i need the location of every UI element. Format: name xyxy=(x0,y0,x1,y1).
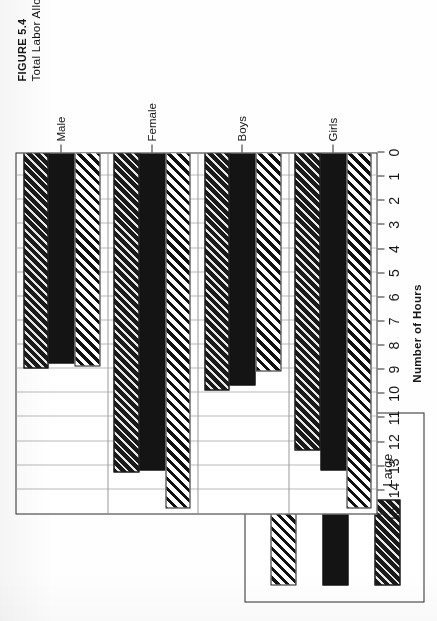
bar-girls-small xyxy=(346,152,372,508)
value-tick xyxy=(377,416,384,417)
category-tick xyxy=(332,144,333,152)
value-tick-label: 1 xyxy=(385,172,401,180)
value-axis-title: Number of Hours xyxy=(410,152,422,514)
value-tick-label: 0 xyxy=(385,148,401,156)
value-tick xyxy=(377,465,384,466)
value-tick-label: 11 xyxy=(385,410,401,425)
value-tick-label: 3 xyxy=(385,221,401,229)
figure-caption: FIGURE 5.4 Total Labor Allocation by Age… xyxy=(15,0,41,81)
category-label-female: Female xyxy=(145,103,157,141)
category-label-boys: Boys xyxy=(235,115,247,141)
bar-group-female xyxy=(107,153,198,513)
category-label-male: Male xyxy=(54,116,66,141)
category-label-girls: Girls xyxy=(326,117,338,141)
bar-group-girls xyxy=(288,153,378,513)
category-tick xyxy=(60,144,61,152)
bar-group-boys xyxy=(197,153,288,513)
bar-boys-small xyxy=(255,152,281,371)
bar-boys-large xyxy=(204,152,230,390)
category-tick xyxy=(241,144,242,152)
value-tick xyxy=(377,248,384,249)
value-tick xyxy=(377,344,384,345)
value-tick xyxy=(377,489,384,490)
rotated-figure-canvas: Small Medium Large 151413121110987654321… xyxy=(0,0,437,621)
value-tick-label: 7 xyxy=(385,317,401,325)
bar-group-male xyxy=(16,153,107,513)
category-axis: MaleFemaleBoysGirls xyxy=(15,106,377,152)
bar-chart xyxy=(15,152,377,514)
value-tick xyxy=(377,272,384,273)
value-tick-label: 15 xyxy=(385,506,401,522)
value-tick-label: 2 xyxy=(385,196,401,204)
bar-girls-medium xyxy=(320,152,346,470)
bar-male-large xyxy=(23,152,49,368)
value-tick-label: 12 xyxy=(385,434,401,450)
value-tick xyxy=(377,296,384,297)
figure-caption-text: Total Labor Allocation by Age, Sex, and … xyxy=(29,0,41,81)
bar-male-medium xyxy=(48,152,74,363)
figure-page: Small Medium Large 151413121110987654321… xyxy=(0,0,437,621)
value-tick-label: 13 xyxy=(385,458,401,474)
value-tick-label: 9 xyxy=(385,365,401,373)
value-tick-label: 6 xyxy=(385,293,401,301)
value-tick xyxy=(377,441,384,442)
value-tick-label: 5 xyxy=(385,269,401,277)
value-tick-label: 4 xyxy=(385,245,401,253)
value-tick xyxy=(377,223,384,224)
value-tick-label: 10 xyxy=(385,386,401,402)
bar-boys-medium xyxy=(229,152,255,385)
value-axis: 1514131211109876543210 xyxy=(377,152,411,514)
plot-area xyxy=(15,152,377,514)
value-tick xyxy=(377,368,384,369)
figure-number: FIGURE 5.4 xyxy=(15,0,27,81)
value-tick xyxy=(377,199,384,200)
value-tick xyxy=(377,320,384,321)
bar-female-small xyxy=(165,152,191,508)
value-tick-label: 14 xyxy=(385,482,401,498)
bar-female-medium xyxy=(139,152,165,470)
value-tick xyxy=(377,151,384,152)
category-tick xyxy=(151,144,152,152)
bar-male-small xyxy=(74,152,100,366)
value-tick xyxy=(377,392,384,393)
bar-female-large xyxy=(113,152,139,472)
value-tick-label: 8 xyxy=(385,341,401,349)
value-tick xyxy=(377,175,384,176)
value-tick xyxy=(377,513,384,514)
bar-girls-large xyxy=(294,152,320,450)
